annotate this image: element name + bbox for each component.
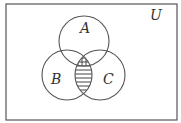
universe-label: U <box>150 7 163 23</box>
set-a-label: A <box>78 20 90 36</box>
set-b-label: B <box>50 71 61 87</box>
venn-diagram: A B C U <box>0 0 181 123</box>
set-c-label: C <box>103 71 114 87</box>
